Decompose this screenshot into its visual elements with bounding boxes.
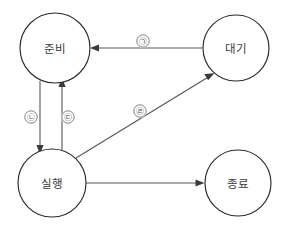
state-node-terminated[interactable]: 종료 [205,150,271,216]
marker-label-t1: ㉠ [139,37,147,46]
state-node-waiting[interactable]: 대기 [203,15,269,81]
diagram-canvas: 준비 대기 실행 종료 ㉠ ㉡ ㉢ [0,0,285,231]
transition-marker-t4: ㉣ [133,104,147,118]
state-transition-diagram: 준비 대기 실행 종료 ㉠ ㉡ ㉢ [0,0,285,231]
marker-label-t2: ㉡ [27,113,35,122]
state-label-terminated: 종료 [227,177,250,191]
transition-marker-t1: ㉠ [136,34,150,48]
transition-marker-t2: ㉡ [24,110,38,124]
state-label-waiting: 대기 [225,42,248,56]
arrowhead-t5 [196,179,205,186]
marker-label-t3: ㉢ [64,113,72,122]
transition-running-to-waiting [76,73,215,158]
state-node-running[interactable]: 실행 [18,149,86,217]
arrowhead-t1 [90,44,99,51]
transition-running-to-terminated [86,179,205,186]
marker-label-t4: ㉣ [136,107,144,116]
state-node-ready[interactable]: 준비 [20,13,90,83]
transition-marker-t3: ㉢ [61,110,75,124]
state-label-running: 실행 [41,177,64,191]
state-label-ready: 준비 [44,42,67,56]
